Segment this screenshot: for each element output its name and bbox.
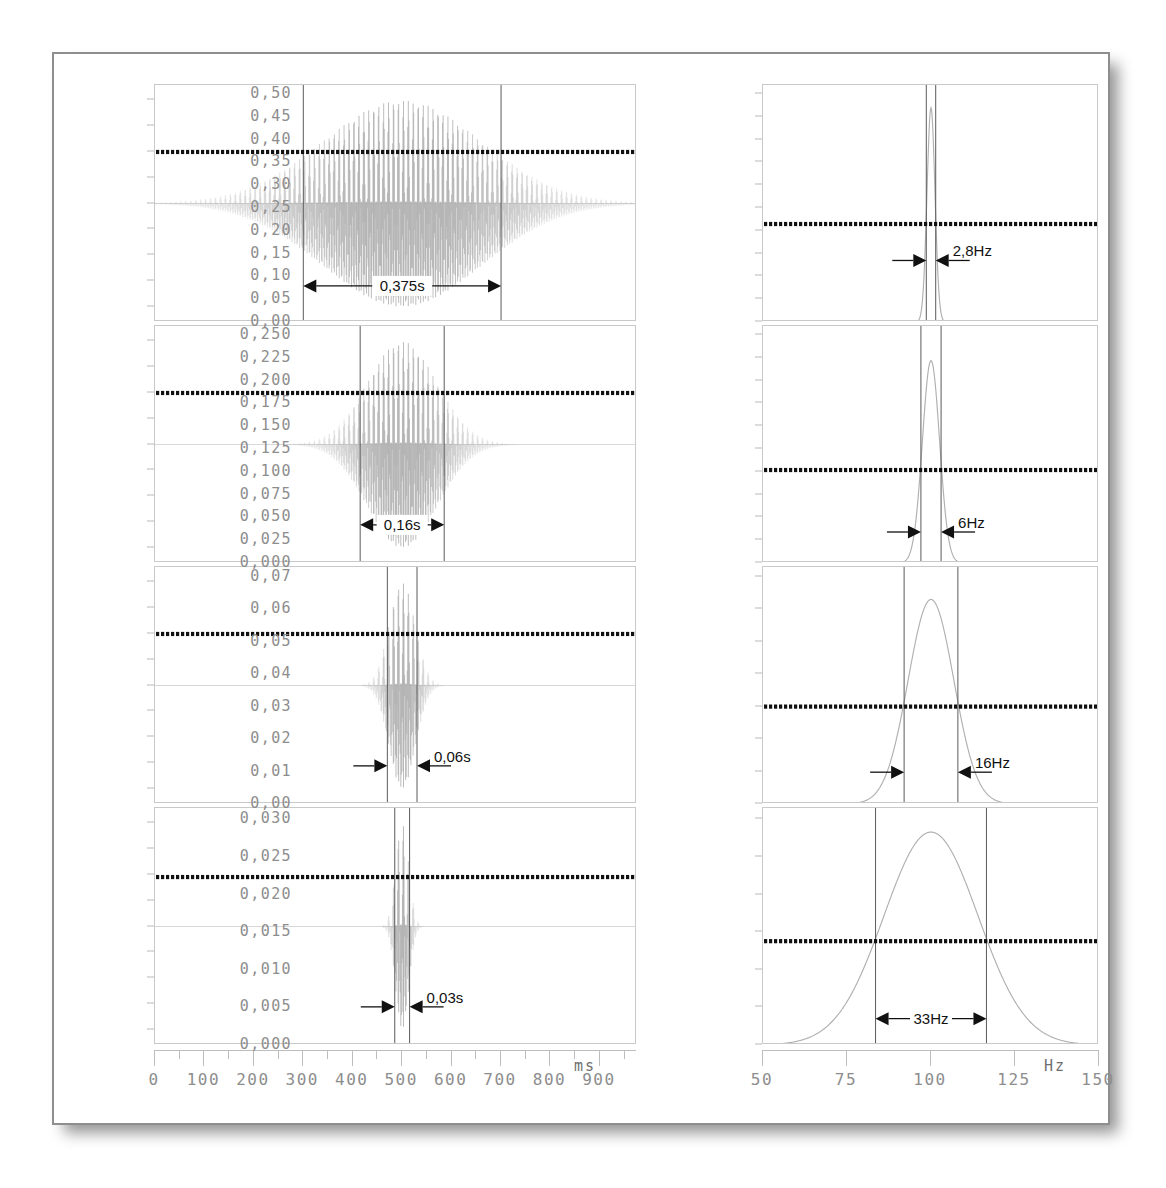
- y-tick-label: 0,100: [240, 462, 292, 480]
- y-tick-label: 0,45: [250, 107, 292, 125]
- y-tick-mark: [147, 279, 154, 280]
- y-tick-label: 0,02: [250, 729, 292, 747]
- x-tick-major: [451, 1050, 452, 1066]
- plot-time-4: 0,03s: [154, 807, 636, 1044]
- frequency-domain-column: 0,500,450,400,350,300,250,200,150,100,05…: [654, 54, 1110, 1123]
- y-tick-mark: [147, 520, 154, 521]
- y-tick-mark: [755, 770, 762, 771]
- y-tick-mark: [755, 855, 762, 856]
- y-tick-mark: [755, 356, 762, 357]
- y-tick-mark: [755, 493, 762, 494]
- spectrum-trace: [763, 361, 1098, 562]
- x-tick-major: [302, 1050, 303, 1066]
- x-tick-minor: [624, 1050, 625, 1059]
- y-tick-mark: [147, 417, 154, 418]
- y-tick-mark: [147, 366, 154, 367]
- y-tick-label: 0,30: [250, 175, 292, 193]
- y-tick-label: 0,050: [240, 507, 292, 525]
- y-tick-mark: [755, 673, 762, 674]
- x-tick-major: [1098, 1050, 1099, 1066]
- x-tick-major: [352, 1050, 353, 1066]
- y-tick-mark: [755, 705, 762, 706]
- y-tick-mark: [147, 761, 154, 762]
- y-tick-label: 0,05: [250, 632, 292, 650]
- y-tick-mark: [147, 546, 154, 547]
- y-tick-label: 0,20: [250, 221, 292, 239]
- plot-time-1: 0,375s: [154, 84, 636, 321]
- y-tick-mark: [755, 562, 762, 563]
- y-tick-mark: [147, 977, 154, 978]
- y-tick-label: 0,010: [240, 960, 292, 978]
- plot-time-3: 0,06s: [154, 566, 636, 803]
- y-tick-mark: [755, 803, 762, 804]
- x-tick-minor: [475, 1050, 476, 1059]
- y-tick-mark: [147, 150, 154, 151]
- spectrum-trace: [763, 599, 1098, 803]
- marker-dotted-line: [156, 150, 634, 154]
- y-tick-label: 0,025: [240, 530, 292, 548]
- y-tick-mark: [147, 305, 154, 306]
- waveform-trace: [155, 101, 636, 306]
- x-tick-label: 0: [148, 1070, 159, 1089]
- x-tick-major: [500, 1050, 501, 1066]
- spectrum-trace: [763, 108, 1098, 321]
- y-tick-mark: [755, 229, 762, 230]
- y-tick-mark: [147, 469, 154, 470]
- y-tick-label: 0,07: [250, 567, 292, 585]
- x-tick-major: [549, 1050, 550, 1066]
- y-tick-label: 0,35: [250, 152, 292, 170]
- y-tick-mark: [147, 848, 154, 849]
- y-tick-mark: [147, 176, 154, 177]
- x-tick-label: 400: [335, 1070, 368, 1089]
- y-tick-mark: [147, 710, 154, 711]
- marker-dotted-line: [764, 468, 1097, 472]
- plot-time-2: 0,16s: [154, 325, 636, 562]
- time-axis-unit-label: ms: [574, 1057, 596, 1075]
- y-tick-label: 0,175: [240, 393, 292, 411]
- x-tick-label: 800: [533, 1070, 566, 1089]
- y-tick-mark: [755, 379, 762, 380]
- y-tick-label: 0,150: [240, 416, 292, 434]
- y-tick-label: 0,030: [240, 809, 292, 827]
- frequency-axis-unit-label: Hz: [1044, 1057, 1066, 1075]
- y-tick-mark: [755, 1006, 762, 1007]
- y-tick-mark: [755, 539, 762, 540]
- y-tick-mark: [147, 340, 154, 341]
- x-tick-major: [154, 1050, 155, 1066]
- x-tick-minor: [426, 1050, 427, 1059]
- y-tick-mark: [755, 738, 762, 739]
- annotation-label: 0,375s: [380, 277, 425, 294]
- span-annotation: 0,06s: [353, 748, 470, 773]
- y-tick-label: 0,01: [250, 762, 292, 780]
- x-tick-label: 100: [187, 1070, 220, 1089]
- x-tick-label: 100: [913, 1070, 946, 1089]
- x-tick-label: 700: [483, 1070, 516, 1089]
- y-tick-mark: [147, 391, 154, 392]
- y-tick-mark: [147, 1002, 154, 1003]
- y-tick-mark: [147, 1028, 154, 1029]
- x-tick-label: 50: [751, 1070, 773, 1089]
- annotation-label: 0,06s: [434, 748, 471, 765]
- plot-freq-3: 16Hz: [762, 566, 1098, 803]
- y-tick-label: 0,250: [240, 325, 292, 343]
- annotation-label: 33Hz: [913, 1010, 948, 1027]
- marker-dotted-line: [764, 939, 1097, 943]
- marker-dotted-line: [156, 632, 634, 636]
- y-tick-mark: [755, 138, 762, 139]
- y-tick-mark: [755, 470, 762, 471]
- y-tick-mark: [147, 254, 154, 255]
- y-tick-mark: [755, 207, 762, 208]
- y-tick-label: 0,020: [240, 885, 292, 903]
- y-tick-mark: [755, 448, 762, 449]
- marker-dotted-line: [156, 391, 634, 395]
- y-tick-mark: [147, 899, 154, 900]
- span-annotation: 6Hz: [887, 514, 985, 539]
- y-tick-mark: [755, 184, 762, 185]
- y-tick-mark: [755, 931, 762, 932]
- x-tick-label: 125: [997, 1070, 1030, 1089]
- y-tick-label: 0,000: [240, 1035, 292, 1053]
- plot-freq-2: 6Hz: [762, 325, 1098, 562]
- y-tick-mark: [147, 873, 154, 874]
- annotation-label: 16Hz: [975, 754, 1010, 771]
- y-tick-label: 0,50: [250, 84, 292, 102]
